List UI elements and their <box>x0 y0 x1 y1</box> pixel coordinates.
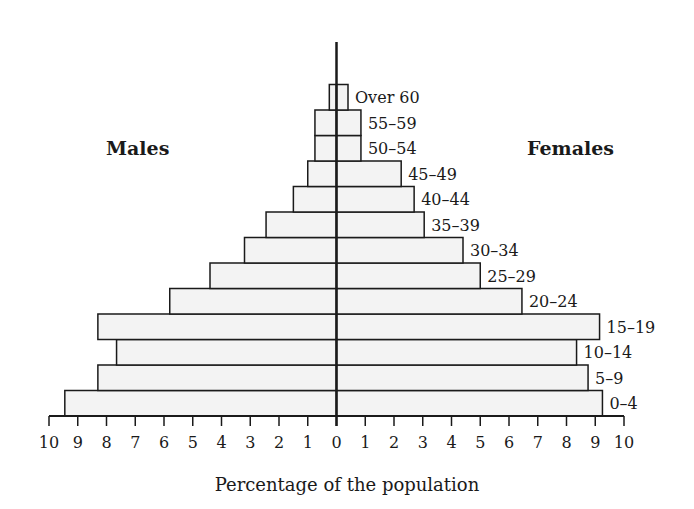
x-tick-label: 9 <box>590 433 600 452</box>
x-tick-label: 1 <box>360 433 370 452</box>
x-tick-label: 5 <box>188 433 198 452</box>
male-bar <box>65 391 337 417</box>
x-tick-label: 10 <box>614 433 634 452</box>
female-bar <box>337 110 361 136</box>
x-tick-label: 2 <box>274 433 284 452</box>
female-bar <box>337 340 577 366</box>
age-group-label: 55–59 <box>368 114 417 133</box>
male-bar <box>308 161 337 187</box>
age-group-label: 35–39 <box>431 216 480 235</box>
x-axis-label: Percentage of the population <box>0 474 694 495</box>
females-title: Females <box>527 137 614 159</box>
age-group-label: 25–29 <box>487 267 536 286</box>
x-tick-label: 5 <box>475 433 485 452</box>
male-bar <box>117 340 337 366</box>
male-bar <box>245 238 337 264</box>
age-group-label: 50–54 <box>368 139 417 158</box>
population-pyramid-chart: 0–45–910–1415–1920–2425–2930–3435–3940–4… <box>0 0 694 509</box>
male-bar <box>170 289 337 315</box>
x-tick-label: 4 <box>446 433 456 452</box>
x-tick-label: 3 <box>418 433 428 452</box>
age-group-label: 20–24 <box>529 292 578 311</box>
x-tick-label: 4 <box>216 433 226 452</box>
x-tick-label: 3 <box>245 433 255 452</box>
age-group-label: 40–44 <box>421 190 470 209</box>
age-group-label: 45–49 <box>408 165 457 184</box>
age-group-label: 0–4 <box>609 394 637 413</box>
female-bar <box>337 289 522 315</box>
age-group-label: 30–34 <box>470 241 519 260</box>
x-tick-label: 2 <box>389 433 399 452</box>
age-group-label: 5–9 <box>595 369 623 388</box>
female-bar <box>337 365 589 391</box>
x-tick-label: 6 <box>504 433 514 452</box>
male-bar <box>210 263 337 289</box>
males-title: Males <box>106 137 169 159</box>
x-tick-label: 0 <box>331 433 341 452</box>
male-bar <box>293 187 336 213</box>
female-bar <box>337 212 425 238</box>
x-tick-label: 6 <box>159 433 169 452</box>
female-bar <box>337 187 415 213</box>
x-tick-label: 8 <box>561 433 571 452</box>
female-bar <box>337 85 349 111</box>
x-tick-label: 8 <box>101 433 111 452</box>
age-group-label: 15–19 <box>607 318 656 337</box>
female-bar <box>337 391 603 417</box>
female-bar <box>337 238 464 264</box>
female-bar <box>337 161 402 187</box>
x-tick-label: 7 <box>130 433 140 452</box>
female-bar <box>337 263 481 289</box>
female-bar <box>337 136 361 162</box>
x-tick-label: 7 <box>533 433 543 452</box>
age-group-label: Over 60 <box>355 88 420 107</box>
male-bar <box>98 314 337 340</box>
x-tick-label: 1 <box>303 433 313 452</box>
x-tick-label: 10 <box>39 433 59 452</box>
male-bar <box>315 110 337 136</box>
male-bar <box>266 212 336 238</box>
x-tick-label: 9 <box>73 433 83 452</box>
age-group-label: 10–14 <box>584 343 633 362</box>
female-bar <box>337 314 600 340</box>
male-bar <box>315 136 337 162</box>
male-bar <box>98 365 337 391</box>
